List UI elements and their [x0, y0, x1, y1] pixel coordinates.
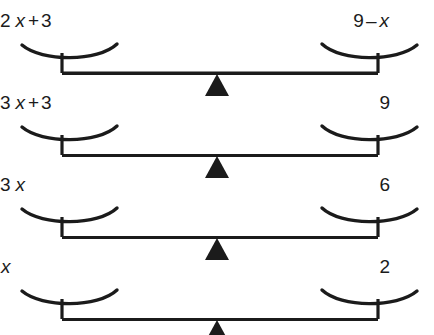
scale-3-artwork: [0, 172, 434, 267]
balance-scale-1: 2 x+3 9–x: [0, 8, 434, 93]
scale-4-fulcrum-triangle: [205, 320, 229, 335]
scale-2-left-pan: [22, 126, 117, 140]
scale-4-left-pan: [22, 290, 117, 304]
scale-3-right-pan: [322, 208, 417, 222]
scale-2-right-pan: [322, 126, 417, 140]
scale-4-right-pan: [322, 290, 417, 304]
scale-1-artwork: [0, 8, 434, 103]
cropped-caption-strip: [0, 0, 434, 6]
scale-4-artwork: [0, 254, 434, 335]
scale-2-artwork: [0, 90, 434, 185]
balance-scale-3: 3 x 6: [0, 172, 434, 257]
balance-scale-2: 3 x+3 9: [0, 90, 434, 175]
scale-3-left-pan: [22, 208, 117, 222]
figure-canvas: 2 x+3 9–x 3 x+3: [0, 0, 434, 335]
scale-1-right-pan: [322, 44, 417, 58]
scale-1-left-pan: [22, 44, 117, 58]
balance-scale-4: x 2: [0, 254, 434, 335]
